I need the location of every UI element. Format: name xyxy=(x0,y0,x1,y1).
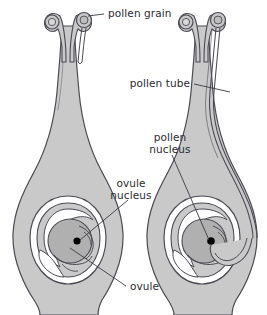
label-pollen-nucleus-line2: nucleus xyxy=(149,143,190,155)
label-pollen-grain: pollen grain xyxy=(108,7,172,19)
label-ovule-nucleus-line2: nucleus xyxy=(110,189,151,201)
pollen-tube-tip-left xyxy=(78,62,82,64)
label-ovule-nucleus-line1: ovule xyxy=(116,177,145,189)
left-flower xyxy=(13,13,123,315)
ovule-nucleus-dot-left xyxy=(73,237,80,244)
pollen-grain-left-left-inner xyxy=(48,18,55,25)
label-pollen-nucleus-line1: pollen xyxy=(154,131,187,143)
pollination-diagram: pollen grain pollen tube pollen nucleus … xyxy=(0,0,267,315)
label-ovule: ovule xyxy=(130,280,159,292)
pollen-grain-right-right-inner xyxy=(214,16,222,24)
diagram-canvas: pollen grain pollen tube pollen nucleus … xyxy=(0,0,267,315)
leader-pollen-grain xyxy=(88,14,104,16)
pollen-tube-start-left xyxy=(78,28,82,62)
right-flower xyxy=(147,13,257,315)
pollen-tube-start-left-edge xyxy=(82,28,86,62)
pollen-grain-right-left-inner xyxy=(80,16,88,24)
label-pollen-tube: pollen tube xyxy=(130,77,190,89)
pollen-grain-left-right-inner xyxy=(182,18,189,25)
